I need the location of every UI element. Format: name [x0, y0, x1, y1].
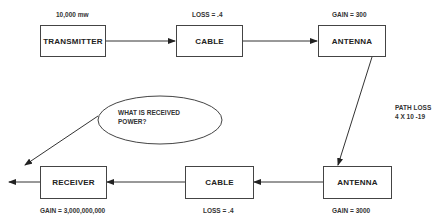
transmitter-power-label: 10,000 mw — [56, 11, 89, 18]
cable-rx-label: CABLE — [205, 178, 234, 187]
path-loss-value: 4 X 10 -19 — [395, 113, 425, 120]
cable-rx-box: CABLE — [185, 166, 254, 199]
antenna-rx-gain-label: GAIN = 3000 — [332, 207, 370, 214]
cable-tx-loss-label: LOSS = .4 — [192, 11, 223, 18]
cable-rx-loss-label: LOSS = .4 — [203, 207, 234, 214]
cable-tx-label: CABLE — [195, 37, 224, 46]
cable-tx-box: CABLE — [176, 25, 243, 57]
receiver-gain-label: GAIN = 3,000,000,000 — [40, 207, 105, 214]
question-line-2: POWER? — [118, 117, 180, 126]
antenna-tx-gain-label: GAIN = 300 — [332, 11, 367, 18]
question-line-1: WHAT IS RECEIVED — [118, 108, 180, 117]
receiver-label: RECEIVER — [52, 178, 95, 187]
antenna-tx-box: ANTENNA — [318, 25, 386, 57]
path-loss-title: PATH LOSS — [395, 104, 431, 111]
arrow-question-to-output — [25, 116, 98, 165]
question-text: WHAT IS RECEIVED POWER? — [118, 108, 180, 126]
arrow-antenna-to-antenna — [338, 57, 372, 165]
transmitter-box: TRANSMITTER — [40, 25, 106, 57]
antenna-rx-box: ANTENNA — [323, 166, 392, 199]
receiver-box: RECEIVER — [40, 166, 107, 199]
antenna-rx-label: ANTENNA — [337, 178, 378, 187]
antenna-tx-label: ANTENNA — [332, 37, 373, 46]
transmitter-label: TRANSMITTER — [43, 37, 103, 46]
